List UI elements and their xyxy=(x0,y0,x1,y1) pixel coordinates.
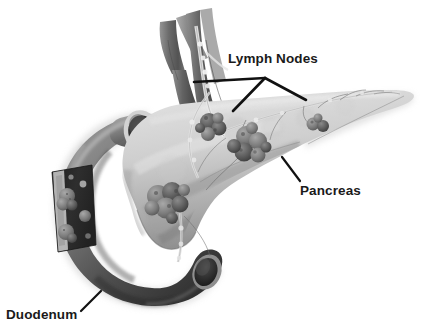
label-duodenum: Duodenum xyxy=(6,308,77,322)
leader-line-duodenum xyxy=(81,291,101,311)
label-pancreas: Pancreas xyxy=(300,184,361,198)
anatomy-drawing xyxy=(0,0,422,334)
label-lymph-nodes: Lymph Nodes xyxy=(228,52,318,66)
pancreas xyxy=(122,90,414,249)
anatomical-illustration: Lymph Nodes Pancreas Duodenum xyxy=(0,0,422,334)
duodenum-cutaway-window xyxy=(52,165,96,252)
leader-line-pancreas xyxy=(282,157,300,181)
